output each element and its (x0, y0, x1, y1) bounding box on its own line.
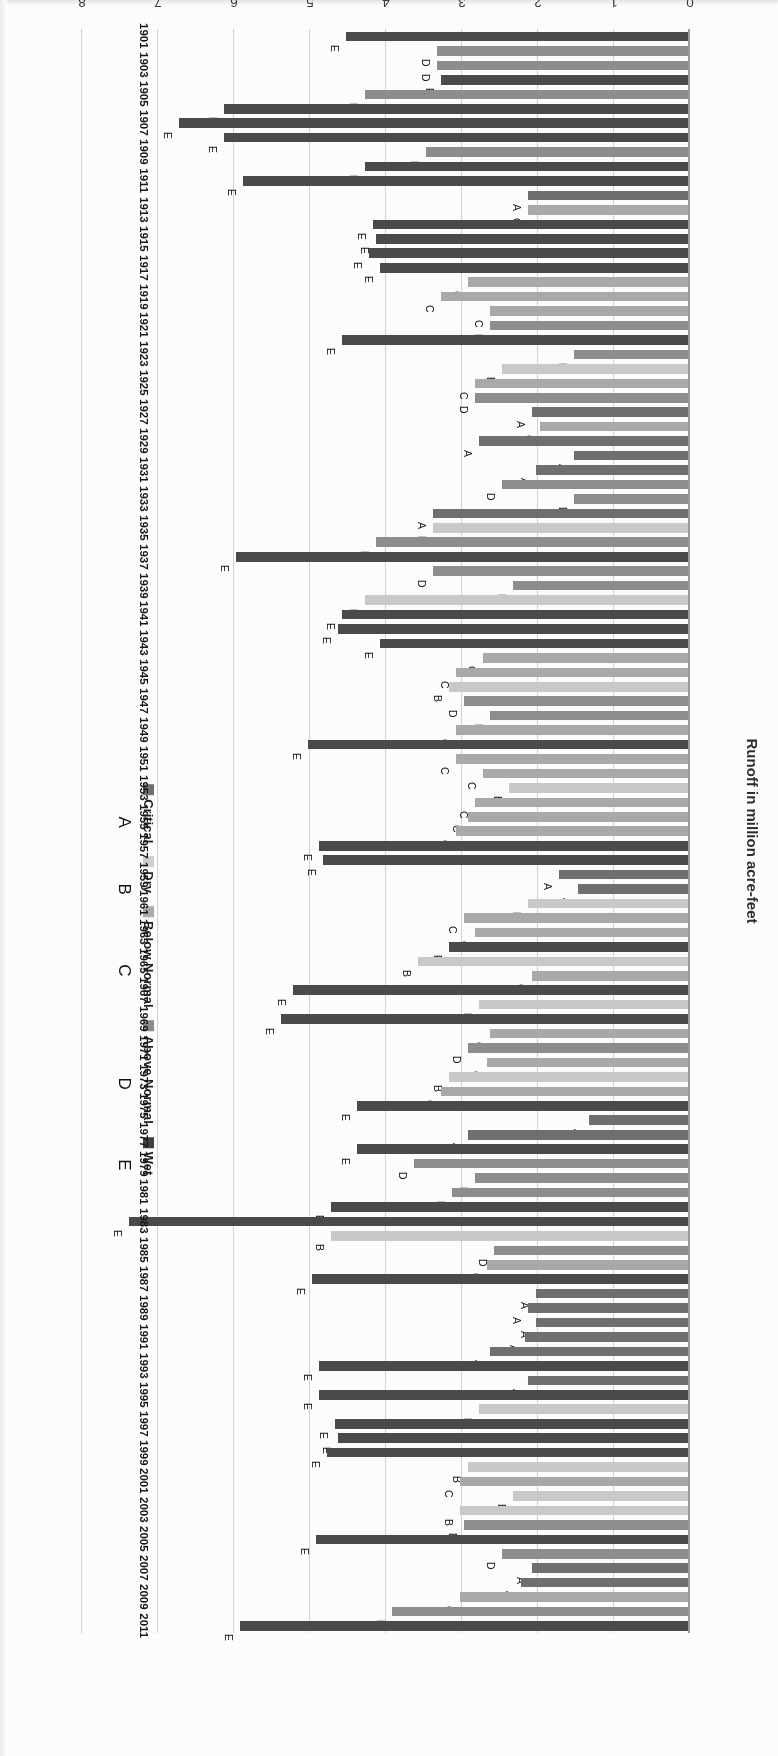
bar-row: E (82, 231, 690, 245)
bar-row: B (82, 520, 690, 534)
bar (418, 957, 688, 967)
bar-row: E (82, 1098, 690, 1112)
bar (392, 1607, 688, 1617)
bar-row: E (82, 1445, 690, 1459)
bar (502, 1549, 688, 1559)
bar-row: C (82, 650, 690, 664)
bar (475, 393, 688, 403)
bar-row: E (82, 636, 690, 650)
bar (456, 754, 688, 764)
bar (460, 1592, 688, 1602)
bar-row: C (82, 809, 690, 823)
bar (468, 812, 688, 822)
bar-row: D (82, 1185, 690, 1199)
scanned-chart-page: CriticalDryBelow NormalAbove NormalWetAB… (0, 0, 778, 1756)
bar-row: E (82, 1416, 690, 1430)
bar (433, 523, 688, 533)
bar (380, 639, 688, 649)
bar-row: A (82, 463, 690, 477)
bar-row: C (82, 419, 690, 433)
bar (357, 1101, 688, 1111)
bar (433, 509, 688, 519)
bar-row: E (82, 1142, 690, 1156)
bar (441, 1087, 688, 1097)
bar-row: C (82, 202, 690, 216)
bar-row: E (82, 853, 690, 867)
bar (456, 725, 688, 735)
value-tick-label: 1 (610, 0, 618, 10)
value-tick-label: 4 (382, 0, 390, 10)
bar-row: B (82, 361, 690, 375)
bar-row: C (82, 1026, 690, 1040)
bar-row: A (82, 1286, 690, 1300)
bar (487, 1260, 688, 1270)
bar (426, 147, 688, 157)
bar-rows: EDDEDEEEDEEACEEEECCCDEDBCDACAAADDABDEDDB… (82, 29, 690, 1633)
bar (365, 90, 688, 100)
bar-row: B (82, 679, 690, 693)
bar-row: C (82, 824, 690, 838)
bar (589, 1115, 688, 1125)
plot-area: 012345678 Runoff in million acre-feet ED… (82, 29, 690, 1633)
bar (342, 335, 688, 345)
bar-row: C (82, 665, 690, 679)
bar-row: E (82, 607, 690, 621)
bar (490, 1029, 688, 1039)
bar (464, 1520, 688, 1530)
bar-row: C (82, 968, 690, 982)
bar-row: D (82, 318, 690, 332)
bar-row: D (82, 44, 690, 58)
bar-row: E (82, 1387, 690, 1401)
bar (490, 306, 688, 316)
bar (293, 985, 688, 995)
bar (456, 826, 688, 836)
bar-row: C (82, 752, 690, 766)
bar-row: A (82, 1301, 690, 1315)
bar-row: E (82, 116, 690, 130)
bar (338, 624, 688, 634)
bar-row: D (82, 145, 690, 159)
bar (319, 1361, 688, 1371)
bar (179, 118, 688, 128)
bar (365, 162, 688, 172)
bar-row: C (82, 289, 690, 303)
bar (316, 1535, 688, 1545)
bar (475, 1173, 688, 1183)
bar (536, 1318, 688, 1328)
bar-row: A (82, 882, 690, 896)
bar (464, 696, 688, 706)
bar (574, 451, 688, 461)
bar-row: E (82, 1532, 690, 1546)
bar (509, 783, 688, 793)
value-tick-label: 6 (230, 0, 238, 10)
bar (494, 1246, 688, 1256)
bar-row: A (82, 1561, 690, 1575)
bar-row: B (82, 954, 690, 968)
bar (449, 682, 688, 692)
bar (475, 798, 688, 808)
bar-row: E (82, 1272, 690, 1286)
bar (528, 899, 688, 909)
bar (536, 465, 688, 475)
value-tick-label: 3 (458, 0, 466, 10)
bar-row: C (82, 1084, 690, 1098)
bar (331, 1231, 688, 1241)
bar-row: D (82, 1604, 690, 1618)
bar (338, 1433, 688, 1443)
bar-row: B (82, 1460, 690, 1474)
bar (532, 971, 688, 981)
bar (578, 884, 688, 894)
bar (574, 494, 688, 504)
bar (452, 1188, 688, 1198)
bar (483, 769, 688, 779)
bar-row: A (82, 1315, 690, 1329)
bar-row: D (82, 390, 690, 404)
bar (240, 1621, 688, 1631)
bar-row: C (82, 1474, 690, 1488)
bar-row: D (82, 1517, 690, 1531)
bar-row: D (82, 1041, 690, 1055)
bar (365, 595, 688, 605)
category-label: 2011 (137, 1603, 151, 1649)
bar-row: C (82, 795, 690, 809)
bar-row: D (82, 694, 690, 708)
